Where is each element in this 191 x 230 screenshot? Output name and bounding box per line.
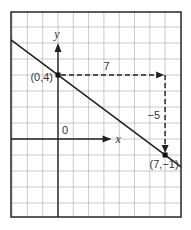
- point-label-0-4: (0,4): [30, 71, 53, 83]
- x-axis-label: x: [115, 132, 122, 146]
- point-label-7-neg1: (7,−1): [150, 158, 179, 170]
- origin-label: 0: [62, 124, 68, 136]
- y-axis-arrow-icon: [55, 43, 62, 52]
- point-marker: [56, 73, 61, 78]
- x-axis-arrow-icon: [103, 136, 112, 143]
- run-arrowhead-icon: [156, 72, 164, 79]
- point-marker: [163, 153, 168, 158]
- y-axis-label: y: [53, 27, 60, 41]
- rise-arrowhead-icon: [162, 145, 169, 153]
- run-label: 7: [103, 60, 109, 72]
- rise-label: −5: [148, 109, 161, 121]
- coordinate-graph: y x 0 (0,4) (7,−1) 7 −5: [0, 0, 191, 230]
